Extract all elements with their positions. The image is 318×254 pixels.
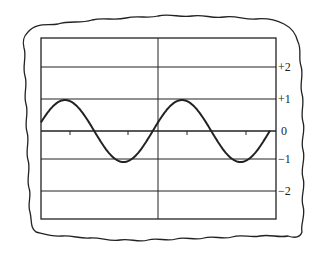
y-label-zero: 0 (281, 125, 287, 137)
oscilloscope-figure (0, 0, 318, 254)
y-label-minus1: −1 (278, 153, 291, 165)
y-label-plus1: +1 (278, 93, 291, 105)
y-label-plus2: +2 (278, 61, 291, 73)
y-label-minus2: −2 (278, 185, 291, 197)
